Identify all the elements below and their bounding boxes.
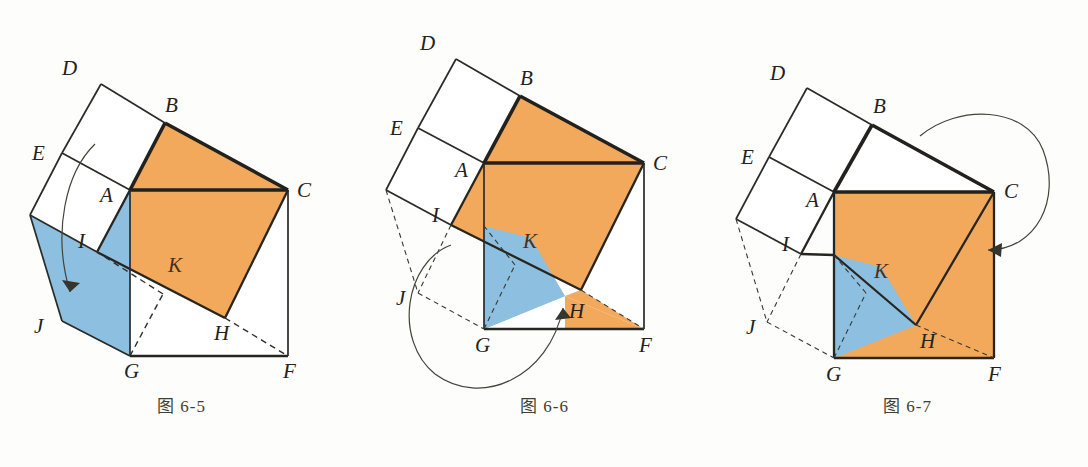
vertex-label-K: K [873,259,889,283]
vertex-label-I: I [431,203,440,227]
vertex-label-F: F [987,362,1001,386]
vertex-label-F: F [638,333,652,357]
vertex-label-A: A [98,183,113,207]
vertex-label-I: I [781,232,790,256]
vertex-label-I: I [77,229,86,253]
vertex-label-B: B [873,94,886,118]
vertex-label-E: E [740,145,754,169]
vertex-label-K: K [522,229,538,253]
vertex-label-D: D [419,31,435,55]
figure-caption-6-7: 图 6-7 [726,392,1088,417]
vertex-label-B: B [165,93,178,117]
vertex-label-A: A [453,158,468,182]
figure-6-5-svg: D B E A C I K J H G F [0,0,363,400]
dashed-J-G [767,322,834,358]
edge-I-to-square [801,254,834,255]
figure-panel-6-6: D B E A C I K J H G F 图 6-6 [363,0,726,467]
figure-panel-6-5: D B E A C I K J H G F 图 6-5 [0,0,363,467]
vertex-label-D: D [769,61,785,85]
vertex-label-J: J [396,286,407,310]
vertex-label-J: J [34,314,45,338]
figure-panel-6-7: D B E A C I K J H G F 图 6-7 [726,0,1088,467]
vertex-label-F: F [282,359,296,383]
figure-caption-6-6: 图 6-6 [363,392,726,417]
dashed-I-J [418,225,451,293]
vertex-label-D: D [61,56,77,80]
vertex-label-B: B [520,66,533,90]
vertex-label-E: E [31,141,45,165]
vertex-label-H: H [213,321,231,345]
vertex-label-G: G [826,362,841,386]
vertex-label-A: A [804,188,819,212]
dashed-J1-J [736,219,767,322]
vertex-label-H: H [568,299,586,323]
dashed-I-J [767,254,801,322]
vertex-label-K: K [167,253,183,277]
vertex-label-C: C [297,178,312,202]
vertex-label-H: H [919,329,937,353]
vertex-label-J: J [746,315,757,339]
figure-caption-6-5: 图 6-5 [0,392,363,417]
figure-6-7-svg: D B E A C I K J H G F [726,0,1088,400]
vertex-label-G: G [475,333,490,357]
vertex-label-G: G [124,359,139,383]
vertex-label-E: E [389,116,403,140]
dashed-J-G [418,293,484,329]
vertex-label-C: C [1004,179,1019,203]
figure-page: D B E A C I K J H G F 图 6-5 [0,0,1088,467]
figure-6-6-svg: D B E A C I K J H G F [363,0,726,400]
vertex-label-C: C [653,151,668,175]
